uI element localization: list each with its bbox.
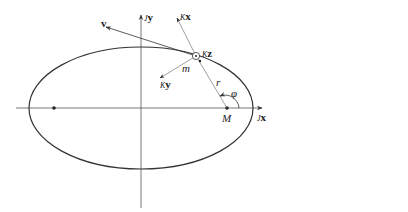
body-m-dot — [195, 55, 197, 57]
body-m-marker — [199, 60, 201, 62]
label-ky: Ky — [159, 78, 171, 90]
focus-other — [52, 106, 56, 110]
orbit-diagram: v Jy Kx Kz m Ky r φ M Jx — [0, 0, 408, 212]
label-r: r — [216, 76, 221, 88]
label-kz: Kz — [201, 47, 212, 59]
label-M: M — [221, 112, 232, 124]
ky-axis — [160, 56, 196, 78]
velocity-vector — [106, 27, 196, 56]
label-phi: φ — [231, 87, 237, 99]
label-jy: Jy — [144, 11, 154, 23]
label-jx: Jx — [257, 111, 267, 123]
label-kx: Kx — [179, 10, 191, 22]
label-m: m — [182, 62, 190, 74]
radius-line — [196, 56, 227, 108]
label-v: v — [101, 17, 107, 29]
